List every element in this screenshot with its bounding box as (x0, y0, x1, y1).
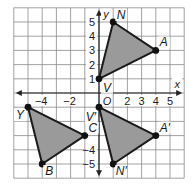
y-tick-label: 2 (89, 59, 95, 71)
vertex-label: V (103, 81, 112, 95)
x-tick-label: 3 (139, 95, 145, 107)
x-axis-label: x (173, 78, 180, 90)
origin-label: O (103, 95, 112, 107)
y-tick-label: 1 (89, 73, 95, 85)
vertex-label: N′ (116, 164, 128, 178)
vertex-label: A′ (159, 121, 171, 135)
vertex-label: N (117, 8, 126, 22)
vertex-label: C (88, 121, 97, 135)
coordinate-plane: −4−2234554321−4−5Oxy VNAV′N′A′YBC (0, 0, 195, 192)
y-tick-label: 3 (89, 44, 95, 56)
x-axis-right-arrow-icon (176, 90, 182, 96)
x-axis-left-arrow-icon (16, 90, 22, 96)
vertex-label: B (45, 164, 53, 178)
y-tick-label: 5 (89, 16, 95, 28)
y-tick-label: −4 (82, 144, 95, 156)
y-tick-label: 4 (89, 30, 95, 42)
y-axis-down-arrow-icon (96, 170, 102, 176)
vertex-point (152, 132, 159, 139)
x-tick-label: 2 (124, 95, 130, 107)
x-tick-label: 5 (167, 95, 173, 107)
y-tick-label: −5 (82, 158, 95, 170)
x-tick-label: −4 (35, 95, 48, 107)
vertex-label: Y (16, 108, 25, 122)
x-tick-label: 4 (153, 95, 159, 107)
vertex-label: A (159, 35, 168, 49)
vertex-point (96, 75, 103, 82)
vertex-point (96, 104, 103, 111)
x-tick-label: −2 (63, 95, 76, 107)
